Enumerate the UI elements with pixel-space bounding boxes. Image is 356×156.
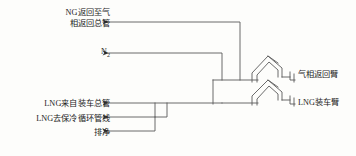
label-ng-return-line1: NG返回至气 (66, 8, 110, 17)
lng-cooling-branch-pipe (109, 103, 167, 117)
ng-return-pipe (109, 22, 240, 80)
label-gas-return-arm: 气相返回臂 (298, 70, 339, 81)
label-ng-return: NG返回至气 相返回总管 (66, 8, 110, 29)
drain-branch-pipe (109, 117, 155, 131)
gas-return-arm-outline-inner (257, 62, 278, 82)
label-ng-return-line2: 相返回总管 (66, 19, 110, 30)
nitrogen-supply-pipe (109, 53, 222, 80)
label-nitrogen: N2 (101, 47, 110, 58)
label-lng-from-loading-main: LNG来自装车总管 (44, 99, 110, 110)
lng-loading-arm-outline-outer (252, 80, 282, 105)
label-lng-to-cooling-line: LNG去保冷循环管线 (36, 114, 110, 125)
lng-loading-arm-outline-inner (257, 86, 278, 105)
label-nitrogen-subscript: 2 (107, 52, 110, 58)
lng-loading-diagram: NG返回至气 相返回总管 N2 LNG来自装车总管 LNG去保冷循环管线 排净 … (0, 0, 356, 156)
label-drain: 排净 (94, 128, 110, 139)
label-lng-loading-arm: LNG装车臂 (298, 98, 339, 109)
